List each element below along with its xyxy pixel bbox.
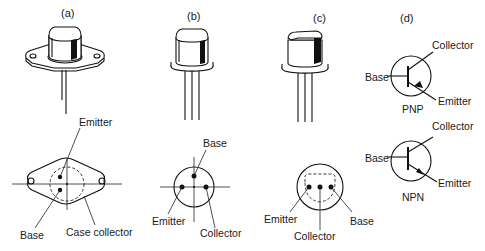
label-npn-collector: Collector xyxy=(432,121,473,132)
label-b-emitter: Emitter xyxy=(152,216,185,227)
label-a-emitter: Emitter xyxy=(79,117,112,128)
label-pnp-emitter: Emitter xyxy=(438,96,471,107)
panel-label-c: (c) xyxy=(313,13,326,24)
npn-symbol xyxy=(387,137,437,182)
transistor-packages-figure: (a) (b) (c) (d) Emitter Base Case collec… xyxy=(0,0,485,251)
label-b-base: Base xyxy=(203,138,227,149)
label-pnp-collector: Collector xyxy=(432,40,473,51)
package-c-drawing xyxy=(282,31,328,122)
caption-npn: NPN xyxy=(402,192,424,203)
label-c-base: Base xyxy=(350,216,374,227)
label-npn-emitter: Emitter xyxy=(438,178,471,189)
panel-label-a: (a) xyxy=(61,8,74,19)
pnp-symbol xyxy=(387,52,436,100)
panel-label-b: (b) xyxy=(187,11,200,22)
label-c-collector: Collector xyxy=(294,231,335,242)
package-a-drawing xyxy=(26,27,105,114)
panel-label-d: (d) xyxy=(400,13,413,24)
label-b-collector: Collector xyxy=(200,228,241,239)
figure-drawing xyxy=(0,0,485,251)
label-a-case-collector: Case collector xyxy=(66,227,133,238)
label-a-base: Base xyxy=(20,230,44,241)
label-pnp-base: Base xyxy=(365,72,389,83)
package-b-drawing xyxy=(171,29,213,120)
package-c-pinout xyxy=(290,164,352,230)
caption-pnp: PNP xyxy=(402,104,424,115)
label-c-emitter: Emitter xyxy=(264,214,297,225)
package-a-pinout xyxy=(12,128,122,228)
label-npn-base: Base xyxy=(365,153,389,164)
